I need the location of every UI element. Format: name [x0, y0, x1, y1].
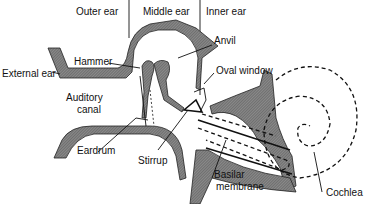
outer-ear-bone — [48, 20, 218, 90]
auditory-canal-bone — [54, 126, 186, 180]
ear-anatomy-diagram: Outer ear Middle ear Inner ear External … — [0, 0, 370, 204]
stirrup-ossicle — [184, 100, 202, 112]
oval-window-leader — [204, 73, 214, 84]
label-cochlea: Cochlea — [326, 187, 363, 198]
label-hammer: Hammer — [74, 56, 113, 67]
eardrum-dashed — [150, 90, 154, 126]
label-basilar: Basilar — [214, 169, 245, 180]
label-canal: canal — [77, 104, 101, 115]
label-eardrum: Eardrum — [77, 145, 115, 156]
anvil-ossicle — [154, 60, 184, 112]
label-external-ear: External ear — [2, 68, 57, 79]
label-auditory: Auditory — [66, 92, 103, 103]
label-stirrup: Stirrup — [138, 155, 168, 166]
cochlea-leader — [314, 152, 322, 192]
region-label-inner-ear: Inner ear — [206, 6, 247, 17]
region-label-outer-ear: Outer ear — [76, 6, 119, 17]
label-membrane: membrane — [216, 181, 264, 192]
label-anvil: Anvil — [214, 35, 236, 46]
region-label-middle-ear: Middle ear — [143, 6, 190, 17]
label-oval-window: Oval window — [216, 65, 273, 76]
